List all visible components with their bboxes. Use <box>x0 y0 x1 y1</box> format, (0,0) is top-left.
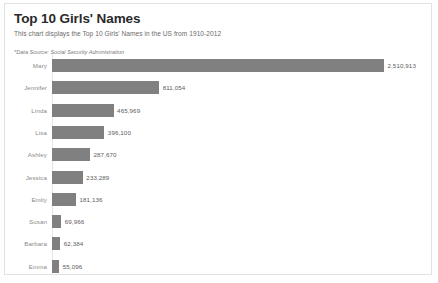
bar-category-label: Barbara <box>5 237 47 250</box>
bar[interactable] <box>52 193 76 206</box>
bar-row: Lisa396,100 <box>5 126 432 148</box>
bar-row: Emily181,136 <box>5 193 432 215</box>
bar[interactable] <box>52 126 104 139</box>
bar-category-label: Jennifer <box>5 81 47 94</box>
bar-value-label: 55,096 <box>63 260 83 273</box>
chart-header: Top 10 Girls' Names This chart displays … <box>5 4 431 38</box>
bar[interactable] <box>52 104 114 117</box>
bar-value-label: 811,054 <box>163 81 186 94</box>
bar-value-label: 396,100 <box>108 126 131 139</box>
bar-row: Ashley287,670 <box>5 148 432 170</box>
bar-chart-plot-area: Mary2,510,913Jennifer811,054Linda465,969… <box>5 54 432 274</box>
bar[interactable] <box>52 59 384 72</box>
bar-category-label: Emma <box>5 260 47 273</box>
bar-value-label: 2,510,913 <box>388 59 416 72</box>
chart-subtitle: This chart displays the Top 10 Girls' Na… <box>14 29 431 38</box>
bar[interactable] <box>52 81 159 94</box>
bar[interactable] <box>52 237 60 250</box>
bar-value-label: 62,384 <box>64 237 84 250</box>
bar-row: Linda465,969 <box>5 104 432 126</box>
bar-value-label: 287,670 <box>94 148 117 161</box>
bar-row: Jessica233,289 <box>5 171 432 193</box>
bar[interactable] <box>52 215 61 228</box>
bar-category-label: Emily <box>5 193 47 206</box>
bar-row: Barbara62,384 <box>5 237 432 259</box>
bar-category-label: Linda <box>5 104 47 117</box>
page-title: Top 10 Girls' Names <box>14 11 431 26</box>
bar-category-label: Jessica <box>5 171 47 184</box>
bar-row: Jennifer811,054 <box>5 81 432 103</box>
bar-value-label: 233,289 <box>86 171 109 184</box>
bar-category-label: Ashley <box>5 148 47 161</box>
bar-category-label: Susan <box>5 215 47 228</box>
bar-row: Mary2,510,913 <box>5 59 432 81</box>
bar[interactable] <box>52 171 83 184</box>
bar[interactable] <box>52 260 59 273</box>
bar-value-label: 465,969 <box>117 104 140 117</box>
bar[interactable] <box>52 148 90 161</box>
bar-category-label: Lisa <box>5 126 47 139</box>
bar-category-label: Mary <box>5 59 47 72</box>
bar-row: Emma55,096 <box>5 260 432 275</box>
chart-card: Top 10 Girls' Names This chart displays … <box>4 3 432 275</box>
bar-value-label: 69,966 <box>65 215 85 228</box>
bar-value-label: 181,136 <box>79 193 102 206</box>
bar-row: Susan69,966 <box>5 215 432 237</box>
